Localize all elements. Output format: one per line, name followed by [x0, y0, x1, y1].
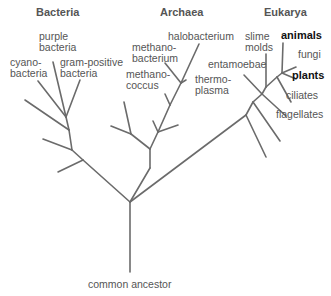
leaf-line: bacterium [132, 53, 178, 64]
leaf-line: bacteria [10, 68, 47, 79]
leaf-methanobacterium: methano- bacterium [132, 42, 178, 64]
domain-label-eukarya: Eukarya [264, 6, 307, 18]
domain-label-bacteria: Bacteria [36, 6, 79, 18]
domain-label-archaea: Archaea [160, 6, 203, 18]
leaf-animals: animals [281, 30, 322, 41]
root-label: common ancestor [88, 279, 171, 290]
bacteria-branch [25, 62, 130, 202]
leaf-halobacterium: halobacterium [168, 31, 234, 42]
leaf-plants: plants [292, 70, 324, 81]
leaf-line: bacteria [60, 68, 123, 79]
leaf-slime-molds: slime molds [245, 31, 273, 53]
leaf-ciliates: ciliates [286, 90, 318, 101]
leaf-entamoebae: entamoebae [208, 59, 266, 70]
leaf-line: bacteria [39, 42, 76, 53]
leaf-thermoplasma: thermo- plasma [195, 74, 231, 96]
leaf-cyanobacteria: cyano- bacteria [10, 57, 47, 79]
leaf-line: coccus [126, 80, 170, 91]
leaf-methanococcus: methano- coccus [126, 69, 170, 91]
leaf-fungi: fungi [298, 49, 321, 60]
leaf-gram-positive-bacteria: gram-positive bacteria [60, 57, 123, 79]
leaf-line: molds [245, 42, 273, 53]
leaf-flagellates: flagellates [276, 109, 323, 120]
leaf-purple-bacteria: purple bacteria [39, 31, 76, 53]
leaf-line: plasma [195, 85, 231, 96]
